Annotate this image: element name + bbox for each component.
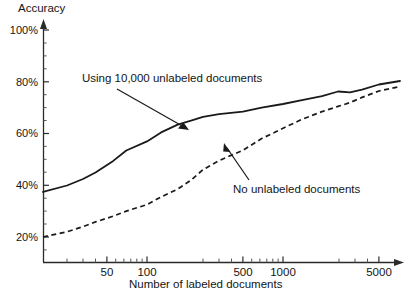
series-line-supervised bbox=[43, 87, 400, 238]
x-tick-label-1000: 1000 bbox=[260, 266, 306, 278]
chart-plot-area bbox=[0, 0, 412, 298]
annotation-label-semi-supervised: Using 10,000 unlabeled documents bbox=[82, 72, 262, 84]
annotation-arrow-semi-supervised bbox=[117, 89, 189, 130]
y-major-ticks bbox=[44, 30, 50, 237]
y-tick-label-40: 40% bbox=[4, 179, 38, 191]
x-tick-label-100: 100 bbox=[124, 266, 170, 278]
accuracy-vs-labeled-documents-chart: Accuracy 100% 80% 60% 40% 20% 50 100 500… bbox=[0, 0, 412, 298]
y-tick-label-60: 60% bbox=[4, 127, 38, 139]
x-axis bbox=[43, 259, 404, 266]
y-tick-label-80: 80% bbox=[4, 76, 38, 88]
y-tick-label-20: 20% bbox=[4, 231, 38, 243]
series-line-semi-supervised bbox=[43, 81, 400, 192]
annotation-label-supervised: No unlabeled documents bbox=[233, 183, 360, 195]
x-axis-title: Number of labeled documents bbox=[129, 278, 282, 290]
x-ticks bbox=[67, 257, 379, 263]
y-tick-label-100: 100% bbox=[4, 24, 38, 36]
y-axis-title: Accuracy bbox=[18, 2, 65, 14]
x-tick-label-5000: 5000 bbox=[356, 266, 402, 278]
